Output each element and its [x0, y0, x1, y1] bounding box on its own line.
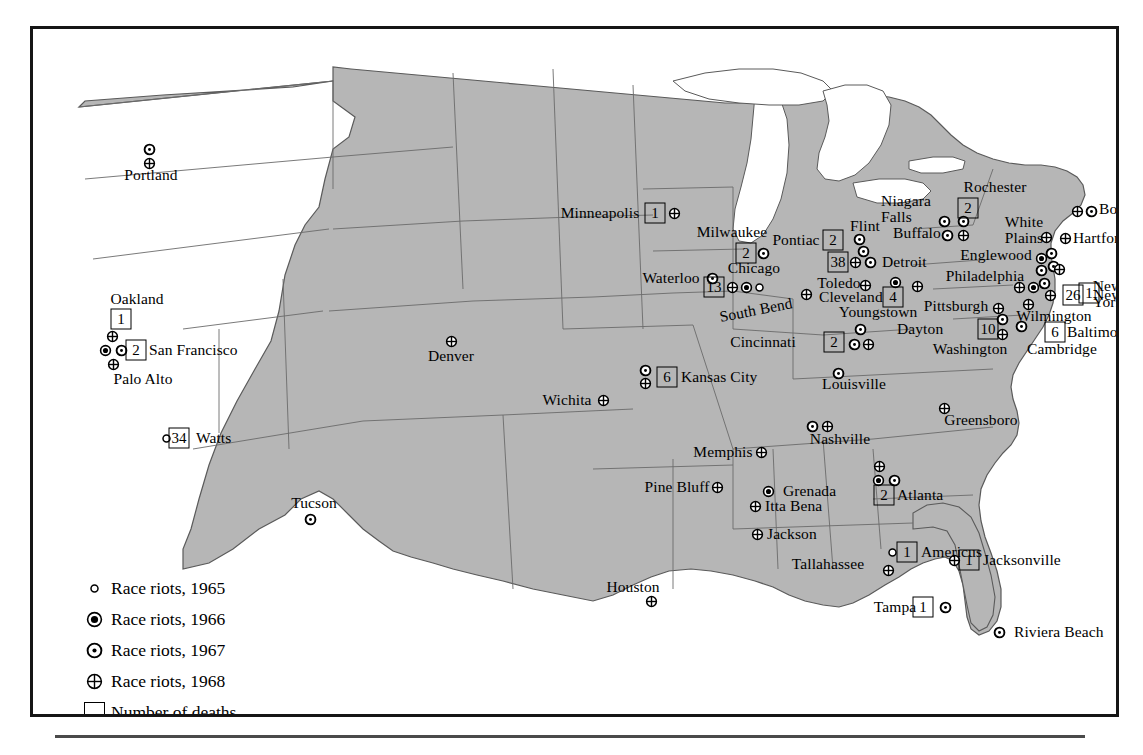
- riot-marker-crossed-circle: [711, 481, 724, 494]
- riot-marker-crossed-circle: [107, 358, 120, 371]
- riot-marker-crossed-circle: [873, 460, 886, 473]
- riot-marker-crossed-circle: [1071, 205, 1084, 218]
- city-label-portland: Portland: [124, 167, 177, 183]
- watts-deaths: 34: [169, 428, 190, 449]
- city-label-boston: Boston: [1099, 201, 1119, 217]
- bottom-divider-rule: [55, 735, 1085, 738]
- city-label-tampa: Tampa: [874, 599, 916, 615]
- city-label-watts: Watts: [196, 430, 231, 446]
- riot-marker-dot-circle: [993, 626, 1006, 639]
- legend-label: Race riots, 1965: [111, 578, 225, 599]
- city-label-waterloo: Waterloo: [642, 270, 699, 286]
- map-figure: PortlandOaklandSan FranciscoPalo AltoWat…: [0, 0, 1143, 755]
- pontiac-deaths: 2: [823, 230, 844, 251]
- city-label-washington: Washington: [933, 341, 1008, 357]
- lake-ontario: [909, 157, 965, 173]
- newark-deaths: 26: [1063, 285, 1084, 306]
- riot-marker-crossed-circle: [597, 394, 610, 407]
- riot-marker-dot-circle: [143, 143, 156, 156]
- legend-label: Race riots, 1968: [111, 671, 225, 692]
- city-label-tucson: Tucson: [291, 495, 337, 511]
- riot-marker-open-circle: [753, 281, 766, 294]
- city-label-milwaukee: Milwaukee: [697, 224, 768, 240]
- city-label-paloalto: Palo Alto: [113, 371, 172, 387]
- city-label-hartford: Hartford: [1073, 230, 1119, 246]
- map-frame: PortlandOaklandSan FranciscoPalo AltoWat…: [30, 26, 1119, 717]
- riot-marker-crossed-circle: [1053, 263, 1066, 276]
- city-label-dayton: Dayton: [897, 321, 943, 337]
- jacksonville-deaths: 1: [959, 550, 980, 571]
- riot-marker-dot-circle: [939, 601, 952, 614]
- city-label-denver: Denver: [428, 348, 474, 364]
- americus-deaths: 1: [897, 542, 918, 563]
- riot-marker-dot-circle: [854, 323, 867, 336]
- city-label-minneapolis: Minneapolis: [561, 205, 640, 221]
- riot-marker-dot-circle: [304, 513, 317, 526]
- baltimore-deaths: 6: [1045, 322, 1066, 343]
- kansascity-deaths: 6: [657, 367, 678, 388]
- riot-marker-filled-circle: [1027, 281, 1040, 294]
- riot-marker-filled-circle: [99, 344, 112, 357]
- riot-marker-crossed-circle: [911, 280, 924, 293]
- riot-marker-crossed-circle: [862, 338, 875, 351]
- riot-marker-crossed-circle: [755, 446, 768, 459]
- riot-marker-dot-circle: [639, 364, 652, 377]
- riot-marker-crossed-circle: [668, 207, 681, 220]
- city-label-houston: Houston: [606, 579, 659, 595]
- city-label-cambridge: Cambridge: [1027, 341, 1097, 357]
- city-label-rivierabeach: Riviera Beach: [1014, 624, 1104, 640]
- riot-marker-crossed-circle: [726, 281, 739, 294]
- riot-marker-crossed-circle: [749, 500, 762, 513]
- city-label-niagarafalls: Niagara Falls: [881, 193, 931, 224]
- city-label-youngstown: Youngstown: [839, 304, 918, 320]
- riot-marker-crossed-circle: [1044, 289, 1057, 302]
- chicago-deaths: 13: [704, 277, 725, 298]
- legend-row-crossed-circle: Race riots, 1968: [77, 666, 327, 697]
- square-icon: [77, 702, 111, 717]
- atlanta-deaths: 2: [874, 485, 895, 506]
- legend-row-filled-circle: Race riots, 1966: [77, 604, 327, 635]
- tampa-deaths: 1: [913, 597, 934, 618]
- city-label-buffalo: Buffalo: [893, 225, 941, 241]
- city-label-kansascity: Kansas City: [681, 369, 757, 385]
- city-label-wichita: Wichita: [542, 392, 591, 408]
- city-label-baltimore: Baltimore: [1067, 324, 1119, 340]
- map-legend: Race riots, 1965Race riots, 1966Race rio…: [77, 573, 327, 717]
- city-label-nashville: Nashville: [810, 431, 870, 447]
- city-label-jacksonville: Jacksonville: [983, 552, 1061, 568]
- city-label-rochester: Rochester: [964, 179, 1027, 195]
- city-label-detroit: Detroit: [882, 254, 927, 270]
- legend-label: Number of deaths: [111, 702, 236, 717]
- riot-marker-crossed-circle: [445, 335, 458, 348]
- washington-deaths: 10: [978, 319, 999, 340]
- riot-marker-crossed-circle: [639, 377, 652, 390]
- riot-marker-crossed-circle: [645, 595, 658, 608]
- city-label-oakland: Oakland: [110, 291, 163, 307]
- cincinnati-deaths: 2: [824, 332, 845, 353]
- riot-marker-crossed-circle: [106, 330, 119, 343]
- death-count-box-icon: [84, 702, 105, 717]
- legend-row-dot-circle: Race riots, 1967: [77, 635, 327, 666]
- riot-marker-dot-circle: [1035, 264, 1048, 277]
- riot-marker-crossed-circle: [1059, 232, 1072, 245]
- cleveland-deaths: 4: [883, 287, 904, 308]
- city-label-louisville: Louisville: [822, 376, 886, 392]
- city-label-ittabena: Itta Bena: [765, 498, 822, 514]
- riot-marker-dot-circle: [848, 338, 861, 351]
- city-label-cincinnati: Cincinnati: [730, 334, 796, 350]
- riot-marker-filled-circle: [740, 281, 753, 294]
- open-circle-icon: [77, 582, 111, 595]
- riot-marker-dot-circle: [757, 247, 770, 260]
- city-label-greensboro: Greensboro: [944, 412, 1017, 428]
- city-label-memphis: Memphis: [693, 444, 752, 460]
- riot-marker-dot-circle: [1085, 205, 1098, 218]
- rochester-deaths: 2: [958, 198, 979, 219]
- legend-row-open-circle: Race riots, 1965: [77, 573, 327, 604]
- sanfrancisco-deaths: 2: [126, 340, 147, 361]
- city-label-jackson: Jackson: [767, 526, 817, 542]
- city-label-sanfrancisco: San Francisco: [149, 342, 238, 358]
- riot-marker-crossed-circle: [849, 256, 862, 269]
- city-label-philadelphia: Philadelphia: [946, 268, 1025, 284]
- legend-row-square: Number of deaths: [77, 697, 327, 717]
- lake-superior: [673, 69, 833, 105]
